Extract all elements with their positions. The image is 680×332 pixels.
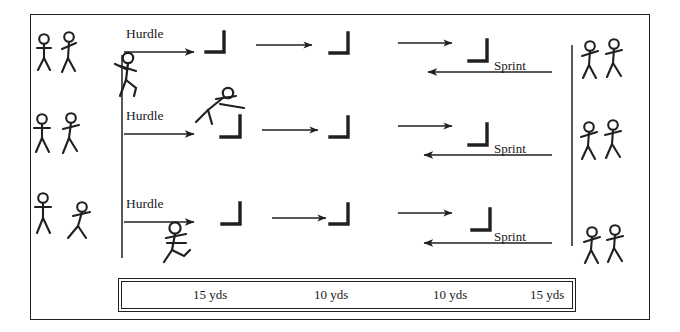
distance-segment-4-label: 15 yds	[530, 287, 564, 303]
distance-segment-1-label: 15 yds	[193, 287, 227, 303]
distance-segment-2-label: 10 yds	[314, 287, 348, 303]
lane-3-hurdle-label: Hurdle	[126, 196, 164, 212]
lane-1-hurdle-label: Hurdle	[126, 26, 164, 42]
diagram-canvas: Hurdle Hurdle Hurdle Sprint Sprint Sprin…	[0, 0, 680, 332]
lane-2-sprint-label: Sprint	[494, 141, 526, 157]
distance-segment-3-label: 10 yds	[433, 287, 467, 303]
lane-3-sprint-label: Sprint	[494, 229, 526, 245]
diagram-frame	[30, 14, 650, 320]
lane-1-sprint-label: Sprint	[494, 58, 526, 74]
lane-2-hurdle-label: Hurdle	[126, 108, 164, 124]
